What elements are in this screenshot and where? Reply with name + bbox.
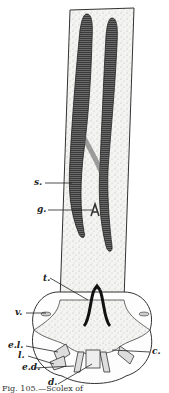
label-t: t. xyxy=(43,274,50,283)
label-g: g. xyxy=(37,205,46,214)
label-el: e.l. xyxy=(8,341,23,350)
label-v: v. xyxy=(15,308,22,317)
label-c: c. xyxy=(152,347,161,356)
label-ed: e.d. xyxy=(22,363,40,372)
scolex-illustration xyxy=(0,0,169,393)
figure-caption: Fig. 105.—Scolex of xyxy=(2,384,83,393)
central-duct xyxy=(86,350,100,368)
label-s: s. xyxy=(34,178,42,187)
label-l: l. xyxy=(18,351,25,360)
